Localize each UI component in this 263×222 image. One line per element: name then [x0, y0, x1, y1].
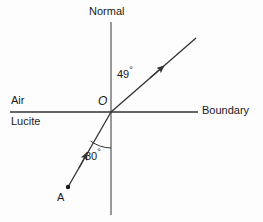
label-point-a: A	[57, 192, 64, 203]
refracted-ray-arrow	[150, 68, 162, 79]
refraction-diagram: Normal Air Lucite Boundary O 49° 30° A	[0, 0, 263, 222]
degree-symbol-incident: °	[97, 147, 101, 157]
label-normal: Normal	[89, 6, 124, 17]
angle-refracted-value: 49	[117, 68, 129, 80]
angle-incident-value: 30	[85, 150, 97, 162]
label-boundary: Boundary	[202, 105, 249, 116]
label-angle-incident: 30°	[85, 148, 101, 162]
label-origin-o: O	[98, 95, 107, 107]
degree-symbol-refracted: °	[129, 65, 133, 75]
label-air: Air	[11, 95, 24, 106]
label-lucite: Lucite	[11, 116, 40, 127]
label-angle-refracted: 49°	[117, 66, 133, 80]
point-a-dot	[66, 185, 70, 189]
